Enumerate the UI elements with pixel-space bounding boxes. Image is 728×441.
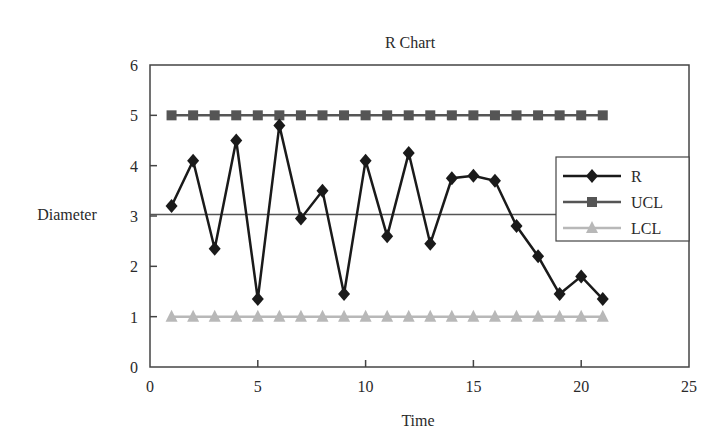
x-tick-label: 15 — [465, 378, 481, 395]
square-marker — [468, 110, 478, 120]
x-tick-label: 10 — [358, 378, 374, 395]
r-chart: R Chart 0123456 0510152025 Diameter Time… — [0, 0, 728, 441]
series-ucl — [167, 110, 608, 120]
square-marker — [317, 110, 327, 120]
legend-label: R — [631, 168, 642, 185]
y-tick-label: 3 — [130, 208, 138, 225]
square-marker — [210, 110, 220, 120]
x-tick-label: 5 — [254, 378, 262, 395]
square-marker — [253, 110, 263, 120]
y-tick-label: 1 — [130, 309, 138, 326]
square-marker — [167, 110, 177, 120]
y-axis-label: Diameter — [37, 206, 97, 223]
y-tick-label: 2 — [130, 258, 138, 275]
square-marker — [555, 110, 565, 120]
x-tick-label: 20 — [573, 378, 589, 395]
square-marker — [339, 110, 349, 120]
legend-label: UCL — [631, 194, 663, 211]
y-tick-label: 0 — [130, 359, 138, 376]
y-tick-label: 4 — [130, 158, 138, 175]
square-marker — [404, 110, 414, 120]
chart-title: R Chart — [385, 34, 436, 51]
x-axis-label: Time — [401, 412, 434, 429]
square-marker — [231, 110, 241, 120]
square-marker — [447, 110, 457, 120]
square-marker — [598, 110, 608, 120]
legend-label: LCL — [631, 220, 661, 237]
square-marker — [512, 110, 522, 120]
square-marker — [382, 110, 392, 120]
legend: RUCLLCL — [556, 157, 689, 241]
x-tick-label: 25 — [681, 378, 697, 395]
square-marker — [533, 110, 543, 120]
y-tick-label: 5 — [130, 107, 138, 124]
square-marker — [587, 197, 597, 207]
square-marker — [576, 110, 586, 120]
x-tick-label: 0 — [146, 378, 154, 395]
square-marker — [296, 110, 306, 120]
square-marker — [188, 110, 198, 120]
y-tick-label: 6 — [130, 57, 138, 74]
square-marker — [425, 110, 435, 120]
square-marker — [361, 110, 371, 120]
square-marker — [490, 110, 500, 120]
